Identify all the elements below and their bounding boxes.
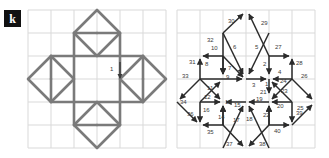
stroke-label-14: 14 xyxy=(218,114,225,120)
stroke-label-29: 29 xyxy=(261,20,268,26)
stroke-label-40: 40 xyxy=(274,128,281,134)
stroke-label-23: 23 xyxy=(281,88,288,94)
stroke-label-16: 16 xyxy=(203,107,210,113)
panel-label-badge: k xyxy=(4,10,21,27)
stroke-label-15: 15 xyxy=(234,102,241,108)
stroke-label-36: 36 xyxy=(187,111,194,117)
stroke-label-28: 28 xyxy=(296,60,303,66)
stroke-label-35: 35 xyxy=(207,129,214,135)
stroke-label-38: 38 xyxy=(259,141,266,147)
stroke-label-39: 39 xyxy=(296,110,303,116)
stroke-label-24: 24 xyxy=(280,78,287,84)
stroke-label-26: 26 xyxy=(301,73,308,79)
stroke-label-37: 37 xyxy=(226,141,233,147)
stroke-label-21: 21 xyxy=(260,89,267,95)
stroke-label-33: 33 xyxy=(182,73,189,79)
figure-canvas: 1 xyxy=(0,0,329,158)
stroke-label-31: 31 xyxy=(189,59,196,65)
stroke-label-30: 30 xyxy=(228,18,235,24)
stroke-label-13: 13 xyxy=(225,99,232,105)
stroke-label-12: 12 xyxy=(204,94,211,100)
panel-label-text: k xyxy=(9,13,16,25)
stroke-label-34: 34 xyxy=(180,99,187,105)
stroke-label-27: 27 xyxy=(275,44,282,50)
stroke-label-32: 32 xyxy=(207,37,214,43)
stroke-label-22: 22 xyxy=(263,112,270,118)
stroke-label-19: 19 xyxy=(256,96,263,102)
stroke-label-10: 10 xyxy=(211,45,218,51)
stroke-label-20: 20 xyxy=(277,103,284,109)
stroke-label-18: 18 xyxy=(246,116,253,122)
stroke-label-17: 17 xyxy=(233,117,240,123)
stroke-label-11: 11 xyxy=(207,85,214,91)
